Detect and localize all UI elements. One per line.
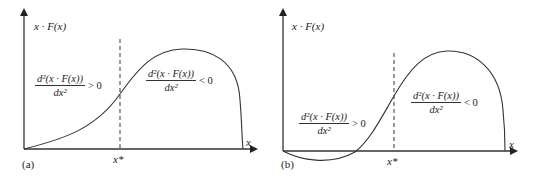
panel-b-right-region-label: d²(x · F(x)) dx² < 0 bbox=[411, 90, 478, 115]
panel-a-left-denominator: dx² bbox=[53, 86, 66, 98]
panel-b-left-region-label: d²(x · F(x)) dx² > 0 bbox=[299, 111, 366, 136]
panel-a-right-inequality: < 0 bbox=[199, 75, 213, 86]
panel-b-left-numerator: d²(x · F(x)) bbox=[299, 111, 349, 123]
panel-b-left-inequality: > 0 bbox=[352, 118, 366, 129]
panel-a-x-star-label: x* bbox=[113, 153, 123, 165]
panel-b-left-denominator: dx² bbox=[317, 124, 330, 136]
panel-a-x-axis-label: x bbox=[246, 136, 251, 148]
panel-a-y-axis-label: x · F(x) bbox=[34, 20, 66, 32]
panel-b-x-axis-label: x bbox=[509, 138, 514, 150]
panel-b-right-denominator: dx² bbox=[429, 103, 442, 115]
panel-b-right-numerator: d²(x · F(x)) bbox=[411, 90, 461, 102]
panel-b-graph bbox=[283, 10, 516, 160]
panel-a-curve bbox=[24, 49, 243, 149]
panel-a-left-inequality: > 0 bbox=[88, 80, 102, 91]
panel-b-right-inequality: < 0 bbox=[464, 97, 478, 108]
panel-a-left-region-label: d²(x · F(x)) dx² > 0 bbox=[35, 73, 102, 98]
panel-a-right-numerator: d²(x · F(x)) bbox=[146, 68, 196, 80]
panel-a-left-numerator: d²(x · F(x)) bbox=[35, 73, 85, 85]
panel-b-x-star-label: x* bbox=[387, 155, 397, 167]
panel-b-caption: (b) bbox=[281, 158, 294, 170]
panel-a-right-denominator: dx² bbox=[164, 81, 177, 93]
panel-b-y-axis-label: x · F(x) bbox=[292, 20, 324, 32]
panel-a-right-region-label: d²(x · F(x)) dx² < 0 bbox=[146, 68, 213, 93]
panel-a-caption: (a) bbox=[22, 158, 34, 170]
